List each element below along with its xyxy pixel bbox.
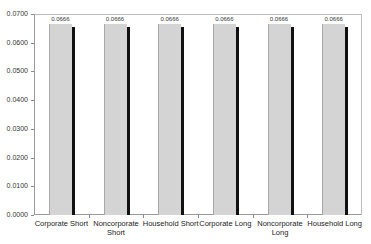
x-tick-label-line: Corporate Long (197, 219, 253, 228)
bar (322, 24, 345, 215)
x-tick-mark (198, 215, 199, 218)
bar-shadow (236, 27, 239, 215)
bar-shadow (345, 27, 348, 215)
data-label: 0.0666 (259, 16, 299, 22)
x-tick-label: NoncorporateShort (88, 219, 144, 237)
bar-shadow (291, 27, 294, 215)
y-tick-label: 0.0100 (0, 182, 28, 190)
bar (49, 24, 72, 215)
y-tick-label: 0.0600 (0, 39, 28, 47)
y-tick-label: 0.0300 (0, 125, 28, 133)
y-tick-label: 0.0000 (0, 211, 28, 219)
x-tick-mark (253, 215, 254, 218)
x-tick-label-line: Short (88, 228, 144, 237)
x-tick-label: Corporate Short (33, 219, 89, 228)
x-tick-label-line: Household Short (143, 219, 199, 228)
x-tick-label: Corporate Long (197, 219, 253, 228)
x-tick-label-line: Noncorporate (88, 219, 144, 228)
x-tick-label-line: Long (252, 228, 308, 237)
data-label: 0.0666 (40, 16, 80, 22)
data-label: 0.0666 (95, 16, 135, 22)
plot-area (34, 14, 362, 215)
x-tick-label-line: Noncorporate (252, 219, 308, 228)
x-tick-mark (89, 215, 90, 218)
x-tick-mark (307, 215, 308, 218)
x-tick-label-line: Corporate Short (33, 219, 89, 228)
bar-shadow (127, 27, 130, 215)
y-tick-label: 0.0500 (0, 67, 28, 75)
bar (213, 24, 236, 215)
x-tick-label-line: Household Long (307, 219, 363, 228)
x-tick-label: NoncorporateLong (252, 219, 308, 237)
x-tick-mark (143, 215, 144, 218)
y-tick-label: 0.0400 (0, 96, 28, 104)
y-tick-label: 0.0200 (0, 154, 28, 162)
x-tick-label: Household Long (307, 219, 363, 228)
bar-shadow (181, 27, 184, 215)
y-tick-mark (31, 215, 34, 216)
bar (158, 24, 181, 215)
bar-shadow (72, 27, 75, 215)
data-label: 0.0666 (314, 16, 354, 22)
data-label: 0.0666 (204, 16, 244, 22)
x-tick-label: Household Short (143, 219, 199, 228)
y-tick-label: 0.0700 (0, 10, 28, 18)
data-label: 0.0666 (150, 16, 190, 22)
bar (268, 24, 291, 215)
bar (104, 24, 127, 215)
